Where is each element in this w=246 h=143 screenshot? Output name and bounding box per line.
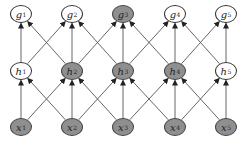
node-subscript: 3 [124,124,128,131]
node-x5: x5 [215,118,237,136]
node-subscript: 5 [227,124,231,131]
node-x2: x2 [61,118,83,136]
node-label: g [67,9,73,20]
node-h5: h5 [215,62,237,80]
node-subscript: 2 [73,124,77,131]
node-g5: g5 [215,5,237,23]
node-label: h [118,66,124,77]
node-label: h [67,66,73,77]
node-label: x [221,122,227,133]
node-label: x [170,122,176,133]
node-x3: x3 [112,118,134,136]
node-label: g [16,9,22,20]
node-label: g [118,9,124,20]
node-x1: x1 [10,118,32,136]
node-label: x [67,122,73,133]
node-subscript: 4 [177,68,181,75]
node-label: x [118,122,124,133]
node-subscript: 2 [74,68,78,75]
node-h1: h1 [10,62,32,80]
node-g2: g2 [61,5,83,23]
node-h4: h4 [164,62,186,80]
node-label: g [221,9,227,20]
node-subscript: 1 [23,68,27,75]
node-g3: g3 [112,5,134,23]
node-subscript: 3 [125,11,129,18]
node-x4: x4 [164,118,186,136]
node-h2: h2 [61,62,83,80]
node-label: h [170,66,176,77]
node-h3: h3 [112,62,134,80]
node-label: h [16,66,22,77]
node-g1: g1 [10,5,32,23]
node-subscript: 5 [228,68,232,75]
node-g4: g4 [164,5,186,23]
node-label: h [221,66,227,77]
node-label: g [170,9,176,20]
sparse-connectivity-diagram: g1g2g3g4g5h1h2h3h4h5x1x2x3x4x5 [0,0,246,143]
node-subscript: 4 [176,124,180,131]
node-subscript: 1 [23,11,27,18]
node-subscript: 4 [177,11,181,18]
node-label: x [16,122,22,133]
node-subscript: 1 [22,124,26,131]
node-subscript: 2 [74,11,78,18]
node-subscript: 3 [125,68,129,75]
node-subscript: 5 [228,11,232,18]
